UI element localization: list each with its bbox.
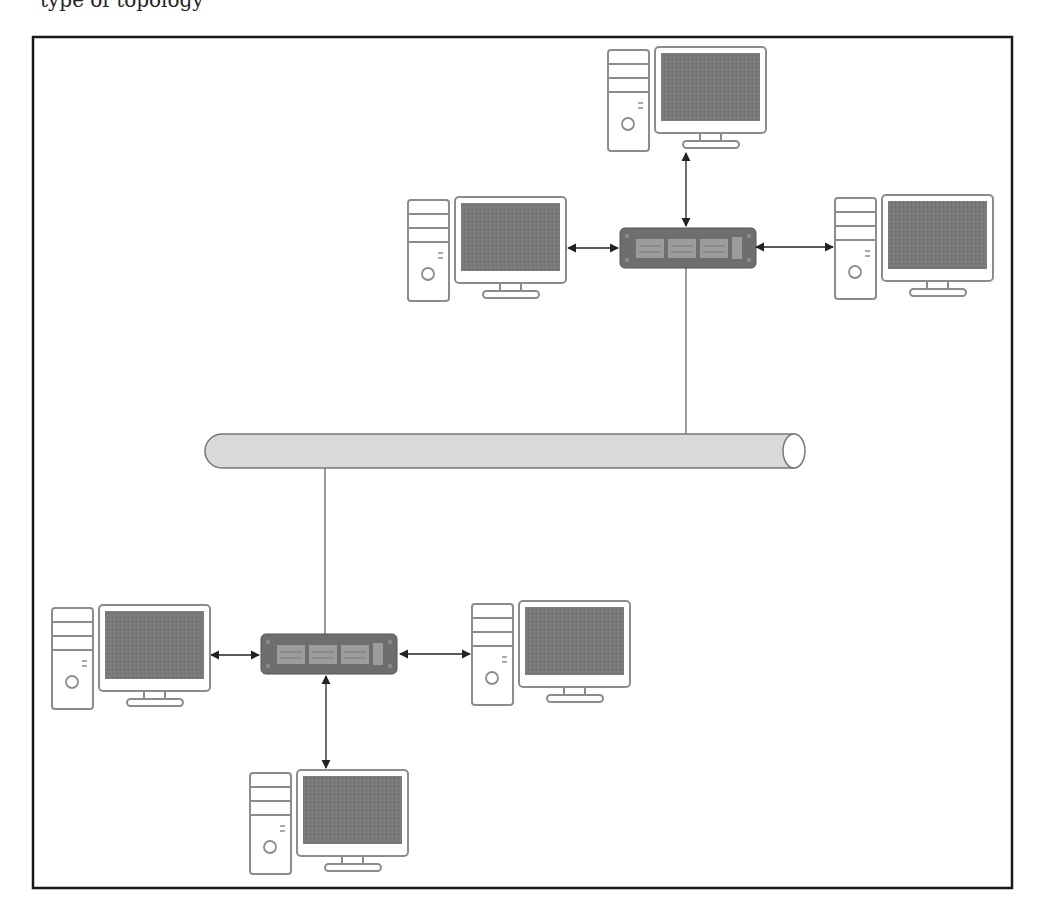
switch-bottom (261, 634, 397, 674)
computer-top-right (835, 195, 993, 299)
network-topology-diagram (0, 0, 1038, 921)
computer-bottom (250, 770, 408, 874)
computer-bottom-right (472, 601, 630, 705)
switch-top (620, 228, 756, 268)
computer-top (608, 47, 766, 151)
computer-top-left (408, 197, 566, 301)
bus-backbone (205, 434, 805, 468)
computer-bottom-left (52, 605, 210, 709)
